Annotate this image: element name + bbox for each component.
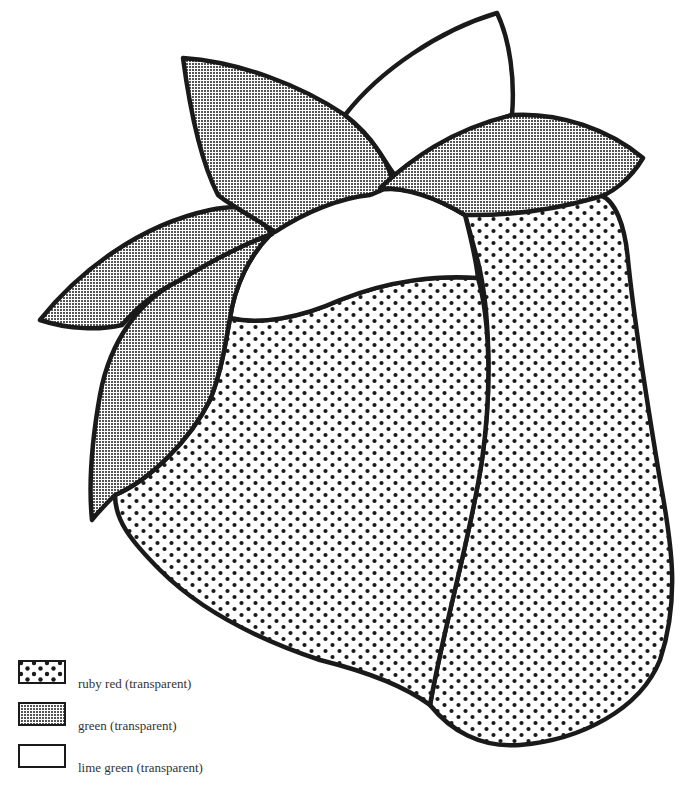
legend-item-ruby-red: ruby red (transparent): [18, 660, 278, 702]
legend-item-lime-green: lime green (transparent): [18, 744, 278, 786]
legend: ruby red (transparent) green (transparen…: [18, 660, 278, 786]
lime-green-swatch-icon: [18, 744, 66, 768]
legend-item-green: green (transparent): [18, 702, 278, 744]
ruby-red-swatch-icon: [18, 660, 66, 684]
legend-label-lime-green: lime green (transparent): [78, 760, 203, 776]
green-swatch-icon: [18, 702, 66, 726]
legend-label-ruby-red: ruby red (transparent): [78, 676, 191, 692]
legend-label-green: green (transparent): [78, 718, 177, 734]
